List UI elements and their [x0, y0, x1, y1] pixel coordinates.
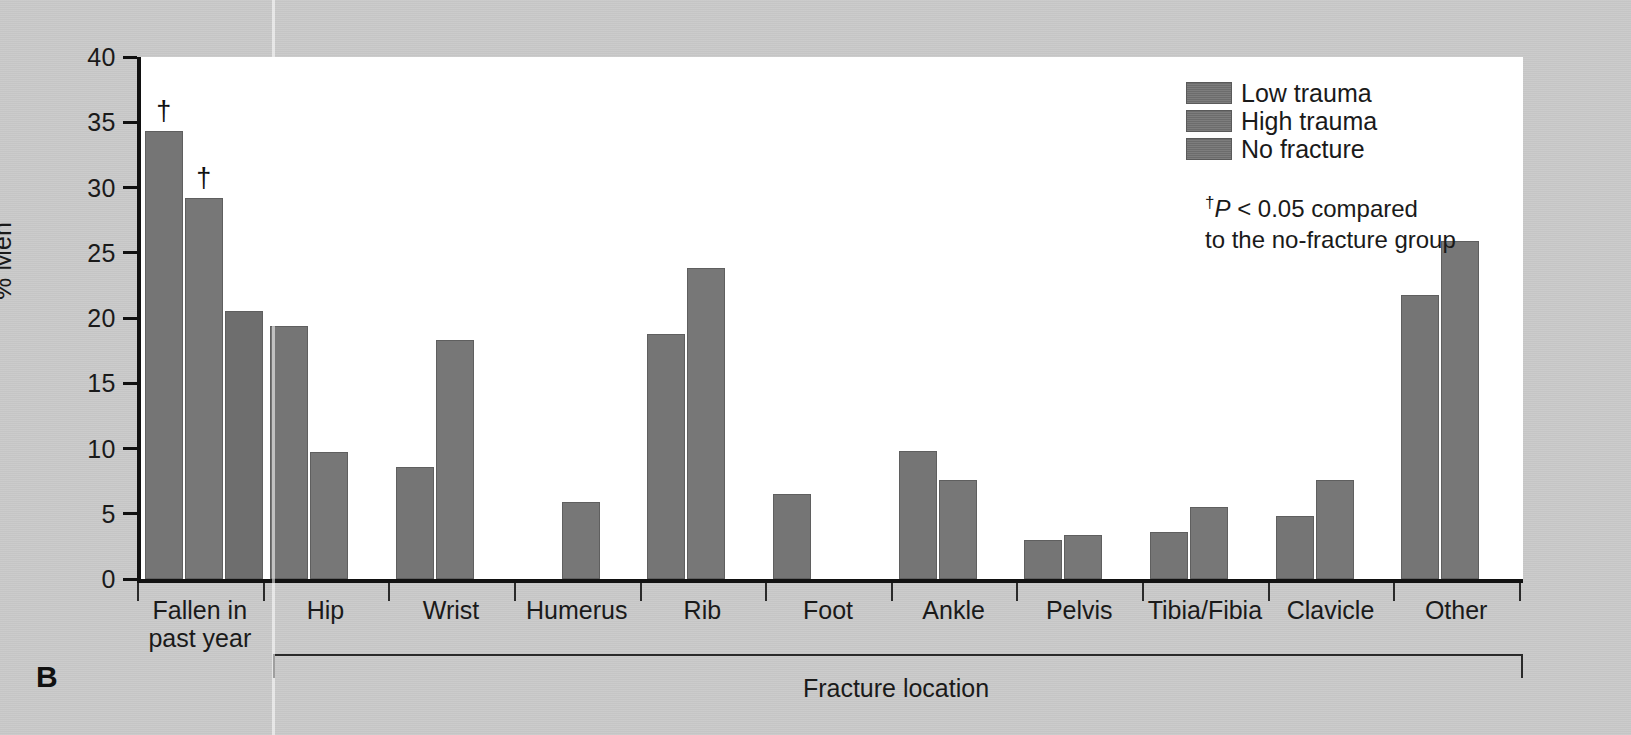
bar-slot: [436, 57, 474, 579]
footnote-line-2: to the no-fracture group: [1205, 224, 1456, 255]
bar[interactable]: [1401, 295, 1439, 579]
legend-item: High trauma: [1186, 108, 1377, 134]
bar-slot: [1104, 57, 1142, 579]
bar[interactable]: [270, 326, 308, 579]
bar-slot: [647, 57, 685, 579]
bar-slot: [1441, 57, 1479, 579]
bar-slot: [853, 57, 891, 579]
significance-footnote: †P < 0.05 compared to the no-fracture gr…: [1205, 192, 1456, 255]
y-axis-tick-mark: [123, 186, 137, 189]
x-axis-category-label: Foot: [765, 596, 891, 624]
y-axis-labels: 0510152025303540: [58, 57, 120, 579]
legend-label-no-fracture: No fracture: [1241, 135, 1365, 164]
x-axis-category-label: Humerus: [514, 596, 640, 624]
bar-group: [392, 57, 518, 579]
bar[interactable]: [687, 268, 725, 579]
bar[interactable]: [1024, 540, 1062, 579]
bar[interactable]: [185, 198, 223, 579]
x-axis-category-label: Rib: [640, 596, 766, 624]
bar-group: [267, 57, 393, 579]
bar-slot: [562, 57, 600, 579]
bar[interactable]: [396, 467, 434, 579]
bar[interactable]: [1276, 516, 1314, 579]
y-axis-tick-mark: [123, 56, 137, 59]
footnote-p: P: [1214, 195, 1230, 222]
bar[interactable]: [225, 311, 263, 579]
x-axis-category-label: Wrist: [388, 596, 514, 624]
y-axis-tick-label: 20: [87, 304, 116, 333]
bar-group: [895, 57, 1021, 579]
bar[interactable]: [899, 451, 937, 579]
bar-slot: [602, 57, 640, 579]
y-axis-title: % Men: [0, 222, 17, 300]
bar-slot: [1024, 57, 1062, 579]
bar-group: [644, 57, 770, 579]
footnote-line-1: †P < 0.05 compared: [1205, 192, 1456, 224]
y-axis-tick-label: 25: [87, 238, 116, 267]
significance-marker: †: [156, 98, 171, 125]
bar[interactable]: [1190, 507, 1228, 579]
bar[interactable]: [1064, 535, 1102, 579]
bar-slot: [1150, 57, 1188, 579]
legend-swatch-low-trauma: [1186, 82, 1232, 104]
bar[interactable]: [436, 340, 474, 579]
bar-slot: †: [185, 57, 223, 579]
bar[interactable]: [310, 452, 348, 579]
scan-seam-artifact: [272, 0, 275, 735]
bar-slot: [270, 57, 308, 579]
bar-slot: [476, 57, 514, 579]
legend-swatch-high-trauma: [1186, 110, 1232, 132]
y-axis-tick-label: 5: [102, 499, 116, 528]
bar-slot: †: [145, 57, 183, 579]
legend-item: No fracture: [1186, 136, 1377, 162]
bar-slot: [979, 57, 1017, 579]
bar-slot: [310, 57, 348, 579]
bar[interactable]: [939, 480, 977, 579]
y-axis-tick-mark: [123, 382, 137, 385]
bar[interactable]: [562, 502, 600, 579]
figure-panel-b: 0510152025303540 % Men †† Fallen in past…: [0, 0, 1631, 735]
y-axis-tick-label: 40: [87, 43, 116, 72]
legend-swatch-no-fracture: [1186, 138, 1232, 160]
y-axis-tick-label: 30: [87, 173, 116, 202]
legend-label-high-trauma: High trauma: [1241, 107, 1377, 136]
x-axis-category-label: Other: [1393, 596, 1519, 624]
bar[interactable]: [145, 131, 183, 579]
bar-slot: [225, 57, 263, 579]
footnote-rest: < 0.05 compared: [1230, 195, 1417, 222]
bar-slot: [350, 57, 388, 579]
y-axis-tick-mark: [123, 512, 137, 515]
legend: Low trauma High trauma No fracture: [1186, 80, 1377, 164]
bar[interactable]: [1316, 480, 1354, 579]
y-axis-tick-label: 10: [87, 434, 116, 463]
bar[interactable]: [647, 334, 685, 579]
bar-slot: [1401, 57, 1439, 579]
bar-group: [769, 57, 895, 579]
legend-item: Low trauma: [1186, 80, 1377, 106]
x-axis-category-label: Pelvis: [1016, 596, 1142, 624]
bar-slot: [813, 57, 851, 579]
y-axis-tick-label: 15: [87, 369, 116, 398]
y-axis-tick-mark: [123, 251, 137, 254]
bar-group: ††: [141, 57, 267, 579]
bar[interactable]: [1441, 241, 1479, 579]
x-axis-category-labels: Fallen in past yearHipWristHumerusRibFoo…: [137, 596, 1523, 656]
bar[interactable]: [1150, 532, 1188, 579]
bar-group: [518, 57, 644, 579]
bar[interactable]: [773, 494, 811, 579]
x-axis-category-label: Clavicle: [1268, 596, 1394, 624]
x-axis-category-label: Ankle: [891, 596, 1017, 624]
bar-slot: [939, 57, 977, 579]
x-axis-group-label: Fracture location: [273, 674, 1519, 703]
legend-label-low-trauma: Low trauma: [1241, 79, 1372, 108]
y-axis-tick-mark: [123, 317, 137, 320]
bar-slot: [1064, 57, 1102, 579]
y-axis-tick-label: 35: [87, 108, 116, 137]
y-axis-tick-mark: [123, 578, 137, 581]
y-axis-tick-mark: [123, 121, 137, 124]
bar-slot: [899, 57, 937, 579]
significance-marker: †: [196, 165, 211, 192]
bar-slot: [687, 57, 725, 579]
bar-slot: [522, 57, 560, 579]
bar-slot: [773, 57, 811, 579]
